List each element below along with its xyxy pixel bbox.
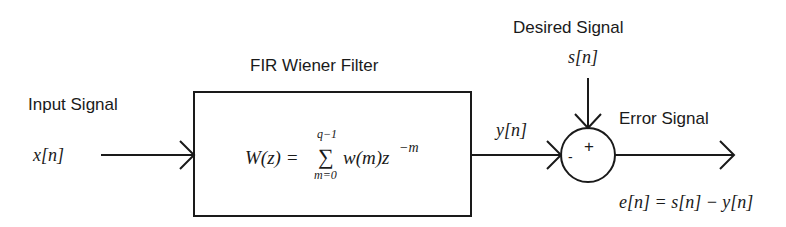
plus-sign: + (584, 137, 594, 156)
filter-title: FIR Wiener Filter (250, 56, 379, 75)
desired-signal-arrow (575, 78, 601, 128)
input-signal-symbol: x[n] (32, 145, 64, 165)
error-signal-label: Error Signal (619, 109, 709, 128)
input-signal-label: Input Signal (28, 95, 118, 114)
sum-upper-limit: q−1 (317, 127, 337, 141)
desired-signal-label: Desired Signal (513, 18, 624, 37)
error-equation: e[n] = s[n] − y[n] (619, 192, 753, 212)
filter-output-arrow (471, 141, 561, 169)
equation-rhs: w(m)z (343, 147, 390, 169)
diagram-canvas: Input Signal x[n] FIR Wiener Filter W(z)… (0, 0, 786, 227)
equation-lhs: W(z) = (245, 147, 298, 169)
sum-lower-limit: m=0 (314, 168, 337, 182)
desired-signal-symbol: s[n] (568, 47, 598, 67)
equation-exponent: −m (399, 140, 419, 155)
sum-symbol: ∑ (318, 144, 334, 169)
filter-output-symbol: y[n] (494, 120, 527, 140)
input-arrow (101, 141, 194, 169)
minus-sign: - (568, 149, 573, 165)
wiener-filter-diagram: Input Signal x[n] FIR Wiener Filter W(z)… (0, 0, 786, 227)
error-output-arrow (615, 141, 734, 169)
transfer-function-equation: W(z) = ∑ q−1 m=0 w(m)z −m (245, 127, 419, 182)
